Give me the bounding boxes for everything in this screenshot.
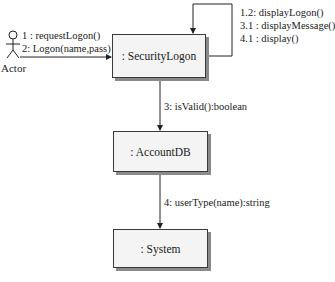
object-label: : SecurityLogon [122,50,196,62]
actor-label: Actor [1,62,26,74]
object-accountdb[interactable]: : AccountDB [113,131,208,172]
message-usertype: 4: userType(name):string [164,197,270,209]
message-display-message: 3.1 : displayMessage() [240,20,335,32]
message-request-logon: 1 : requestLogon() [22,30,100,42]
object-securitylogon[interactable]: : SecurityLogon [112,34,206,78]
message-display: 4.1 : display() [240,33,299,45]
actor-icon [6,31,20,58]
message-isvalid: 3: isValid():boolean [164,101,247,113]
message-display-logon: 1.2: displayLogon() [240,7,323,19]
object-label: : System [141,243,181,255]
object-system[interactable]: : System [113,229,208,268]
message-logon: 2: Logon(name,pass) [22,43,111,55]
object-label: : AccountDB [130,146,190,158]
